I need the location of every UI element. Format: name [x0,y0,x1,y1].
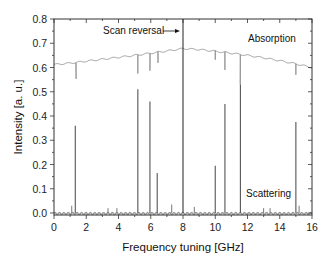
y-tick-label: 0.5 [32,86,47,98]
y-tick-label: 0.7 [32,37,47,49]
y-axis-title: Intensity [a. u.] [12,80,24,155]
scan-reversal-label: Scan reversal [103,25,164,36]
y-tick-label: 0.1 [32,183,47,195]
x-tick-label: 16 [306,221,318,233]
x-tick-label: 10 [209,221,221,233]
scan-reversal-arrow-icon [163,29,180,33]
x-tick-label: 14 [274,221,286,233]
plot-content [54,19,312,214]
spectrum-chart: 02468101214160.00.10.20.30.40.50.60.70.8… [0,0,333,260]
absorption-label: Absorption [248,33,296,44]
x-tick-label: 12 [242,221,254,233]
x-tick-label: 0 [51,221,57,233]
x-tick-label: 4 [116,221,122,233]
y-tick-label: 0.8 [32,13,47,25]
x-tick-label: 6 [148,221,154,233]
y-tick-label: 0.4 [32,110,47,122]
scattering-label: Scattering [246,188,291,199]
x-axis-title: Frequency tuning [GHz] [122,241,243,253]
x-tick-label: 2 [83,221,89,233]
y-tick-label: 0.3 [32,134,47,146]
y-tick-label: 0.2 [32,159,47,171]
y-tick-label: 0.6 [32,62,47,74]
x-tick-label: 8 [180,221,186,233]
y-tick-label: 0.0 [32,207,47,219]
